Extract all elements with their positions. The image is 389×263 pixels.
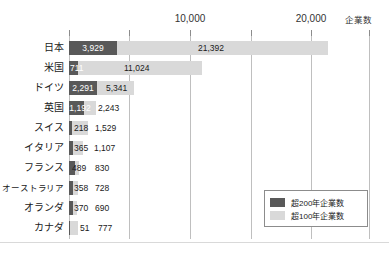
legend: 超200年企業数 超100年企業数 [264,190,368,227]
bar-value-over-200y: 489 [72,161,86,175]
bar-chart: 10,000 20,000 企業数 日本 3,929 21,392 米国 711… [0,0,389,263]
category-label: ドイツ [0,78,64,98]
table-row: イタリア 365 1,107 [0,138,389,158]
bar-value-over-200y: 2,291 [69,81,97,95]
bar-value-over-100y: 830 [95,161,109,175]
category-label: オーストラリア [0,178,64,198]
bar-value-over-100y: 1,529 [95,121,116,135]
bar-over-100y [69,221,78,235]
table-row: スイス 218 1,529 [0,118,389,138]
legend-swatch-icon [270,211,285,220]
bar-over-200y [69,121,72,135]
bar-value-over-100y: 11,024 [124,61,149,75]
bar-value-over-200y: 365 [74,141,88,155]
x-axis-unit-label: 企業数 [345,13,372,25]
table-row: ドイツ 2,291 5,341 [0,78,389,98]
bar-over-200y [69,201,73,215]
category-label: 英国 [0,98,64,118]
bar-over-200y [69,141,73,155]
legend-label: 超200年企業数 [291,197,344,208]
bar-value-over-200y: 218 [74,121,88,135]
bar-value-over-200y: 51 [80,221,89,235]
bar-value-over-200y: 1,192 [69,101,91,115]
table-row: 米国 711 11,024 [0,58,389,78]
category-label: フランス [0,158,64,178]
category-label: 米国 [0,58,64,78]
bar-value-over-200y: 370 [74,201,88,215]
table-row: 英国 1,192 2,243 [0,98,389,118]
bottom-rule [0,242,389,243]
bar-value-over-200y: 3,929 [69,41,117,55]
category-label: スイス [0,118,64,138]
bar-value-over-100y: 777 [98,221,112,235]
table-row: フランス 489 830 [0,158,389,178]
bar-value-over-100y: 728 [95,181,109,195]
bar-value-over-100y: 5,341 [106,81,127,95]
legend-item-over-100y: 超100年企業数 [270,209,362,221]
category-label: オランダ [0,198,64,218]
x-axis-tick-label-10000: 10,000 [175,13,206,24]
category-label: イタリア [0,138,64,158]
category-label: カナダ [0,218,64,238]
bar-value-over-100y: 2,243 [98,101,119,115]
bar-value-over-200y: 711 [70,61,84,75]
legend-label: 超100年企業数 [291,210,344,221]
bar-over-200y [69,221,70,235]
bar-value-over-100y: 1,107 [94,141,115,155]
table-row: 日本 3,929 21,392 [0,38,389,58]
x-axis-tick-label-20000: 20,000 [296,13,327,24]
bar-value-over-100y: 690 [95,201,109,215]
legend-item-over-200y: 超200年企業数 [270,196,362,208]
bar-value-over-100y: 21,392 [198,41,224,55]
legend-swatch-icon [270,198,285,207]
bar-value-over-200y: 358 [74,181,88,195]
category-label: 日本 [0,38,64,58]
bar-over-200y [69,181,73,195]
